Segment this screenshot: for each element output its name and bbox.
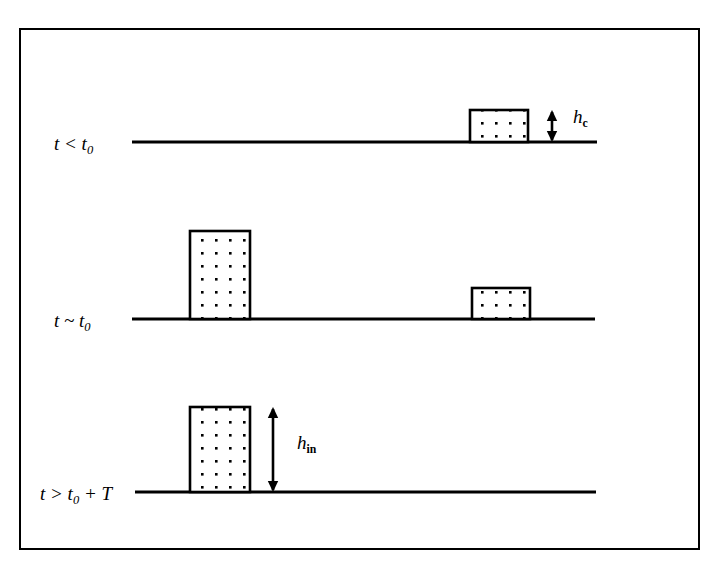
figure-border [20,29,699,549]
label-main-text: t ~ t [54,310,84,331]
box-r1-right [470,110,528,142]
figure-root: t < t0 t ~ t0 t > t0 + T hc hin [0,0,718,575]
box-r2-left-outline [190,231,250,319]
dim-symbol: h [573,106,583,127]
label-subscript: 0 [84,320,90,334]
box-r1-right-outline [470,110,528,142]
row-1 [132,110,597,142]
box-r3-left [190,407,250,492]
dim-subscript: in [307,443,317,456]
dim-symbol: h [297,432,307,453]
box-r2-right-outline [472,288,530,319]
box-r2-right [472,288,530,319]
dim-subscript: c [583,117,588,130]
dimension-label-hc: hc [573,107,588,129]
hc-arrow-head-up [547,110,557,121]
hc-arrow-head-down [547,131,557,142]
label-main-text: t > t [40,483,73,504]
row-label-t-gt-t0-plus-T: t > t0 + T [40,484,112,507]
label-main-text: t < t [54,133,87,154]
box-r2-left [190,231,250,319]
hc-arrow [547,110,557,142]
row-2 [132,231,595,319]
hin-arrow-head-down [268,481,278,492]
label-suffix-text: + T [79,483,112,504]
row-3 [135,407,596,492]
label-subscript: 0 [87,143,93,157]
hin-arrow-head-up [268,407,278,418]
box-r3-left-outline [190,407,250,492]
row-label-t-approx-t0: t ~ t0 [54,311,91,334]
dimension-label-hin: hin [297,433,316,455]
profile-rows [132,110,597,492]
row-label-t-lt-t0: t < t0 [54,134,93,157]
figure-frame-rect [20,29,699,549]
hin-arrow [268,407,278,492]
